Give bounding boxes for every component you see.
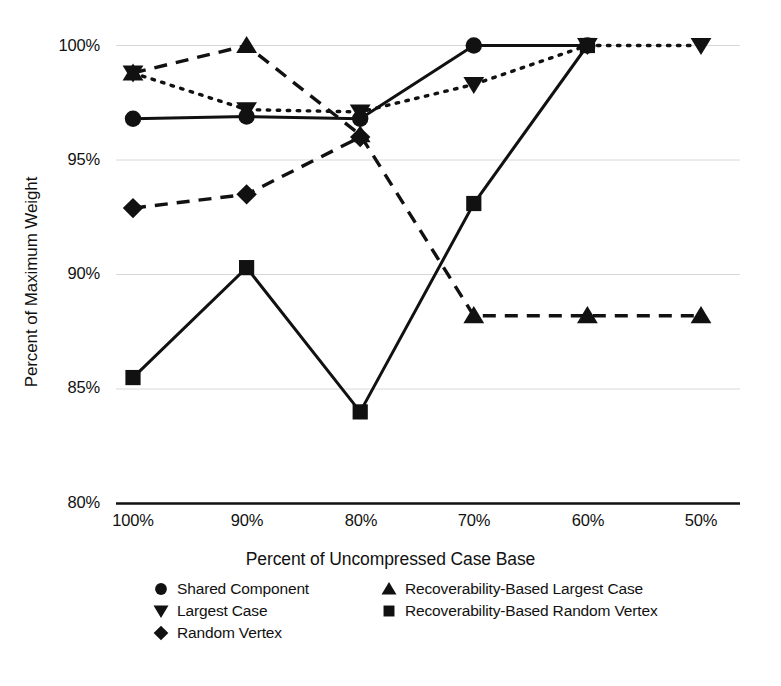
legend-label-recoverability-largest-case: Recoverability-Based Largest Case (405, 580, 643, 598)
data-point-marker (123, 198, 143, 218)
legend-item-recoverability-largest-case: Recoverability-Based Largest Case (380, 578, 658, 600)
legend-column-left: Shared Component Largest Case Random Ver… (152, 578, 309, 644)
data-point-marker (125, 370, 140, 385)
legend-column-right: Recoverability-Based Largest Case Recove… (380, 578, 658, 622)
legend-item-random-vertex: Random Vertex (152, 622, 309, 644)
series-lines (133, 46, 701, 412)
legend-item-largest-case: Largest Case (152, 600, 309, 622)
legend-item-shared-component: Shared Component (152, 578, 309, 600)
data-point-marker (463, 306, 484, 323)
legend-item-recoverability-random-vertex: Recoverability-Based Random Vertex (380, 600, 658, 622)
data-point-marker (466, 37, 482, 53)
triangle-down-marker-icon (152, 602, 170, 620)
triangle-up-marker-icon (380, 580, 398, 598)
data-point-marker (236, 184, 256, 204)
data-point-marker (580, 38, 595, 53)
series-markers (123, 36, 712, 420)
x-axis-title: Percent of Uncompressed Case Base (0, 549, 781, 570)
data-point-marker (239, 260, 254, 275)
data-point-marker (125, 111, 141, 127)
series-line-1 (133, 46, 701, 112)
diamond-marker-icon (152, 624, 170, 642)
data-point-marker (236, 36, 257, 53)
circle-marker-icon (152, 580, 170, 598)
series-line-3 (133, 46, 701, 316)
data-point-marker (466, 196, 481, 211)
legend-label-recoverability-random-vertex: Recoverability-Based Random Vertex (405, 602, 658, 620)
series-line-4 (133, 46, 587, 412)
square-marker-icon (380, 602, 398, 620)
data-point-marker (353, 404, 368, 419)
legend-label-random-vertex: Random Vertex (177, 624, 282, 642)
data-point-marker (691, 38, 712, 55)
legend-label-largest-case: Largest Case (177, 602, 267, 620)
legend-label-shared-component: Shared Component (177, 580, 309, 598)
chart-figure: Percent of Maximum Weight 100% 95% 90% 8… (0, 0, 781, 686)
